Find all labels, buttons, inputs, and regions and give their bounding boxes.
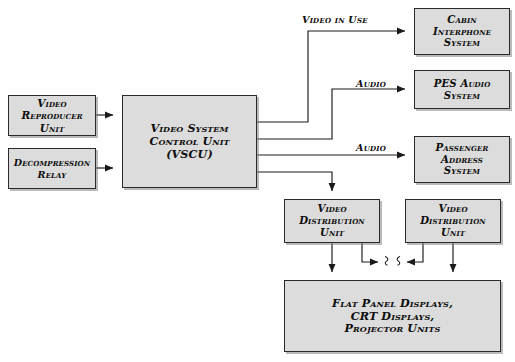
diagram-canvas: Video Reproducer Unit Decompression Rela… [0,0,515,362]
node-label: Passenger Address System [433,142,492,177]
node-label: Video System Control Unit (VSCU) [146,122,232,161]
edge-label-video-in-use: Video in Use [302,14,368,25]
connector-vscu-to-cabin-interphone [257,31,405,122]
break-squiggle-right [385,257,388,266]
connector-vdu1-to-break [362,243,378,262]
edge-label-audio-lower: Audio [356,142,386,153]
node-video-system-control-unit[interactable]: Video System Control Unit (VSCU) [122,95,257,188]
node-label: Video Reproducer Unit [18,97,85,134]
node-cabin-interphone-system[interactable]: Cabin Interphone System [414,8,510,55]
connector-break-to-vdu2 [407,243,423,262]
node-passenger-address-system[interactable]: Passenger Address System [414,136,510,183]
node-label: Cabin Interphone System [430,14,494,49]
node-label: Decompression Relay [11,157,94,179]
edge-label-audio-upper: Audio [356,78,386,89]
connector-vscu-to-video-distribution-unit-1 [257,172,332,191]
node-label: PES Audio System [431,78,494,102]
node-video-distribution-unit-2[interactable]: Video Distribution Unit [405,199,501,243]
node-display-units[interactable]: Flat Panel Displays, CRT Displays, Proje… [284,280,501,352]
node-video-distribution-unit-1[interactable]: Video Distribution Unit [284,199,380,243]
node-pes-audio-system[interactable]: PES Audio System [414,70,510,109]
node-decompression-relay[interactable]: Decompression Relay [8,148,96,189]
break-squiggle-left [397,257,400,266]
node-video-reproducer-unit[interactable]: Video Reproducer Unit [8,95,96,136]
node-label: Video Distribution Unit [417,203,489,238]
node-label: Flat Panel Displays, CRT Displays, Proje… [329,297,456,336]
node-label: Video Distribution Unit [296,203,368,238]
connector-vscu-to-pes-audio [257,89,405,139]
